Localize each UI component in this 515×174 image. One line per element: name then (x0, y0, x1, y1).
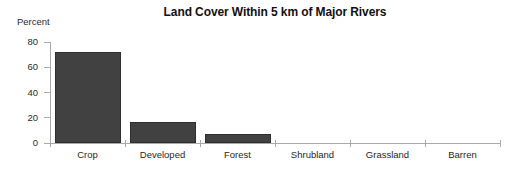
plot-area (50, 42, 500, 143)
y-tick-label: 0 (8, 138, 38, 148)
y-tick-label: 20 (8, 113, 38, 123)
y-tick-label: 40 (8, 88, 38, 98)
bar-crop (55, 52, 121, 143)
x-tick-label-crop: Crop (50, 150, 125, 160)
y-axis-label: Percent (17, 16, 50, 27)
bar-developed (130, 122, 196, 143)
bar-chart: Land Cover Within 5 km of Major Rivers P… (0, 0, 515, 174)
chart-title: Land Cover Within 5 km of Major Rivers (50, 5, 500, 19)
x-tick-label-forest: Forest (200, 150, 275, 160)
x-tick-label-grassland: Grassland (350, 150, 425, 160)
x-tick-label-developed: Developed (125, 150, 200, 160)
y-tick-label: 80 (8, 37, 38, 47)
y-tick-label: 60 (8, 62, 38, 72)
x-tick-mark (500, 140, 501, 147)
bar-forest (205, 134, 271, 143)
x-tick-label-shrubland: Shrubland (275, 150, 350, 160)
x-tick-label-barren: Barren (425, 150, 500, 160)
